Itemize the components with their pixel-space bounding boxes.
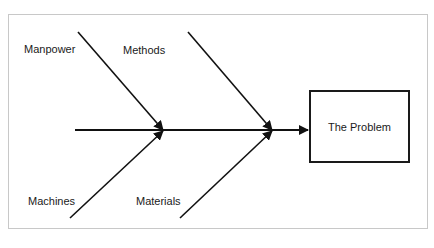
problem-box: The Problem: [309, 90, 410, 163]
problem-label: The Problem: [328, 121, 391, 133]
bone-materials: [180, 131, 272, 218]
category-label-methods: Methods: [123, 44, 165, 56]
category-label-machines: Machines: [28, 195, 75, 207]
category-label-manpower: Manpower: [24, 43, 75, 55]
category-label-materials: Materials: [136, 195, 181, 207]
bone-methods: [188, 32, 272, 130]
